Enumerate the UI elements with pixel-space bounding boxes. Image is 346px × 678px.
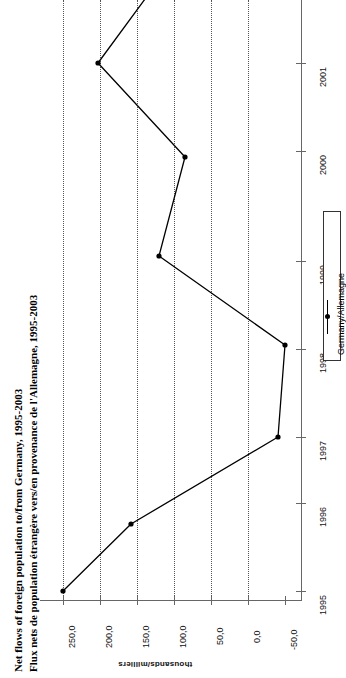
data-point-2000 bbox=[182, 154, 187, 159]
value-label-50: 50,0 bbox=[215, 627, 225, 645]
value-tick-0 bbox=[248, 596, 249, 605]
value-label-minus50: -50,0 bbox=[289, 629, 299, 650]
value-tick-250 bbox=[63, 596, 64, 605]
value-axis-line bbox=[40, 600, 302, 601]
value-label-0: 0,0 bbox=[252, 630, 262, 643]
value-label-100: 100,0 bbox=[178, 625, 188, 648]
year-tick-1997 bbox=[296, 437, 306, 438]
chart-title-english: Net flows of foreign population to/from … bbox=[12, 389, 24, 672]
data-point-1999 bbox=[156, 253, 161, 258]
legend-marker-dot bbox=[325, 314, 330, 319]
chart-title-french: Flux nets de population étrangère vers/e… bbox=[27, 295, 39, 672]
value-tick-50 bbox=[211, 596, 212, 605]
value-tick-100 bbox=[174, 596, 175, 605]
data-point-1998 bbox=[282, 342, 287, 347]
data-point-2001 bbox=[95, 60, 100, 65]
category-axis-line bbox=[301, 0, 302, 601]
year-tick-1996 bbox=[296, 503, 306, 504]
year-label-1995: 1995 bbox=[318, 595, 328, 615]
value-tick-minus50 bbox=[285, 596, 286, 605]
value-label-250: 250,0 bbox=[67, 625, 77, 648]
series-line bbox=[63, 0, 285, 591]
value-label-200: 200,0 bbox=[104, 625, 114, 648]
year-label-1997: 1997 bbox=[318, 441, 328, 461]
year-tick-1995 bbox=[296, 591, 306, 592]
plot-area bbox=[40, 0, 301, 600]
year-tick-2000 bbox=[296, 151, 306, 152]
value-tick-200 bbox=[100, 596, 101, 605]
value-tick-150 bbox=[137, 596, 138, 605]
series-germany-allemagne bbox=[40, 0, 301, 600]
data-point-1996 bbox=[128, 521, 133, 526]
value-axis-title: thousands/milliers bbox=[118, 660, 192, 669]
year-tick-2001 bbox=[296, 63, 306, 64]
value-label-150: 150,0 bbox=[141, 625, 151, 648]
year-tick-1998 bbox=[296, 349, 306, 350]
year-label-2001: 2001 bbox=[318, 67, 328, 87]
data-point-1997 bbox=[275, 434, 280, 439]
data-point-1995 bbox=[60, 588, 65, 593]
year-label-1996: 1996 bbox=[318, 507, 328, 527]
year-label-2000: 2000 bbox=[318, 155, 328, 175]
legend-item-germany-allemagne: Germany/Allemagne bbox=[336, 273, 346, 355]
year-tick-1999 bbox=[296, 261, 306, 262]
